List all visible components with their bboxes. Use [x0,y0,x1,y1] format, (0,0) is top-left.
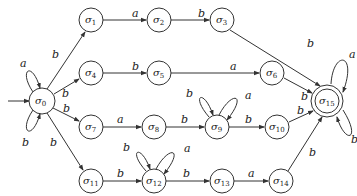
state-s10: σ10 [265,115,289,139]
edge-label: a [245,89,252,102]
edge-label: b [52,48,59,61]
state-s1: σ1 [79,8,103,32]
edge-label: b [301,90,308,103]
edge-label: a [132,7,139,20]
state-s4: σ4 [79,61,103,85]
edge-s12-loop-b [137,152,150,171]
state-s2: σ2 [147,8,171,32]
edge-s9-loop-b [200,97,213,117]
state-s8: σ8 [142,115,166,139]
state-s3: σ3 [210,8,234,32]
edge-label: b [22,136,29,149]
edge-label: b [309,146,316,159]
edge-label: b [50,136,57,149]
edge-label: b [62,87,69,100]
state-s14: σ14 [269,169,293,193]
edge-label: b [186,87,193,100]
edge-label: b [351,133,357,146]
edge-label: b [307,37,314,50]
edge-label: b [132,60,139,73]
state-s6: σ6 [260,61,284,85]
edge-label: b [297,104,304,117]
edge-s15-loop-b [337,110,352,135]
state-s11: σ11 [79,169,103,193]
state-s0: σ0 [29,88,55,114]
edge-label: a [184,142,191,155]
state-s13: σ13 [210,169,234,193]
edge-label: b [183,167,190,180]
edge-label: b [198,7,205,20]
state-s12: σ12 [142,169,166,193]
edge-label: b [245,113,252,126]
edge-label: b [181,113,188,126]
state-s7: σ7 [79,115,103,139]
edge-label: a [349,48,356,61]
state-s5: σ5 [147,61,171,85]
edge-label: a [230,60,237,73]
edge-label: a [248,167,255,180]
edge-label: a [117,113,124,126]
edge-label: b [123,141,130,154]
state-s9: σ9 [205,115,229,139]
state-s15-accepting: σ15 [311,85,343,117]
edge-label: a [20,57,27,70]
edge-label: b [63,102,70,115]
edge-s14-s15 [288,117,322,171]
edge-label: b [117,167,124,180]
automaton-diagram: a b b b b b a b b b a b a b b a b b b b … [0,0,357,196]
